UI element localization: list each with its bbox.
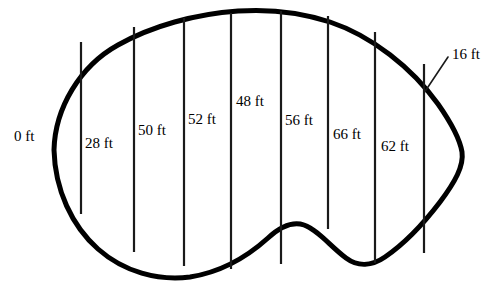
measurement-label-16: 16 ft — [452, 47, 480, 62]
irregular-region-figure — [0, 0, 496, 285]
measurement-label-66: 66 ft — [333, 127, 361, 142]
measurement-label-50: 50 ft — [138, 123, 166, 138]
measurement-label-48: 48 ft — [236, 94, 264, 109]
measurement-label-52: 52 ft — [188, 112, 216, 127]
leader-line-16ft — [424, 57, 448, 93]
measurement-label-28: 28 ft — [85, 136, 113, 151]
measurement-label-0: 0 ft — [14, 129, 34, 144]
measurement-label-56: 56 ft — [285, 113, 313, 128]
measurement-label-62: 62 ft — [381, 139, 409, 154]
